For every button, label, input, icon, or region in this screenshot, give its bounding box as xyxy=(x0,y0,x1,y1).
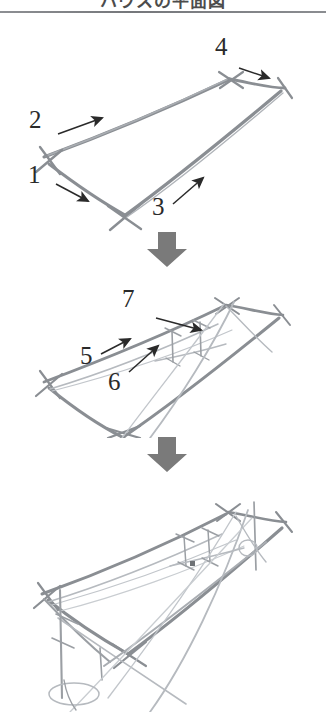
step-number-6: 6 xyxy=(108,369,121,394)
step-arrows-step-1 xyxy=(56,68,269,204)
arrow-step-3 xyxy=(173,178,203,204)
pencil-strokes-step-3 xyxy=(34,502,292,712)
arrow-step-2 xyxy=(58,118,102,134)
page-header: ハウスの平面図 xyxy=(0,0,326,16)
panel-step-1: 1 2 3 4 xyxy=(0,16,326,232)
panel-step-2: 5 6 7 xyxy=(0,258,326,438)
page-root: ハウスの平面図 xyxy=(0,0,326,712)
arrow-step-1 xyxy=(56,184,88,201)
sketch-step-2 xyxy=(0,258,326,438)
step-number-1: 1 xyxy=(28,162,41,187)
panel-step-3 xyxy=(0,466,326,712)
step-number-5: 5 xyxy=(80,343,93,368)
arrow-step-6 xyxy=(129,346,158,372)
step-number-3: 3 xyxy=(152,194,165,219)
step-number-7: 7 xyxy=(122,286,135,311)
step-number-2: 2 xyxy=(29,107,42,132)
header-divider-rule xyxy=(0,11,326,13)
arrow-step-4 xyxy=(239,68,269,78)
sketch-step-3 xyxy=(0,466,326,712)
step-number-4: 4 xyxy=(215,34,228,59)
arrow-step-5 xyxy=(101,339,130,354)
step-arrows-step-2 xyxy=(101,318,201,372)
pencil-strokes-step-2 xyxy=(36,298,290,438)
